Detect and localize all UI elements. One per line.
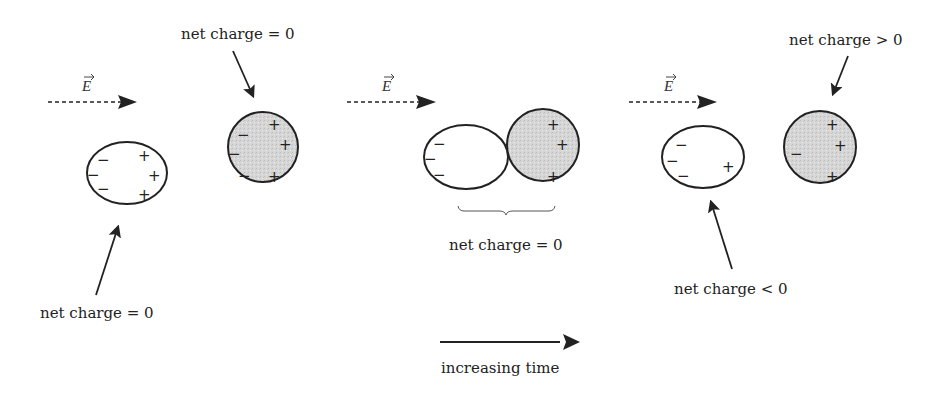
positive-charge: + <box>722 158 735 176</box>
brace-icon <box>458 206 555 215</box>
positive-charge: + <box>148 167 161 185</box>
pointer-arrow <box>833 56 848 94</box>
arrowhead-icon <box>416 95 436 109</box>
time-arrow: increasing time <box>440 334 580 377</box>
left-sphere-label: net charge = 0 <box>40 227 154 322</box>
right-sphere: + + + <box>507 109 579 186</box>
left-sphere: − − − + + + <box>87 142 167 204</box>
positive-charge: + <box>138 147 151 165</box>
positive-charge: + <box>268 116 281 134</box>
left-sphere: − − − + <box>662 126 744 188</box>
right-sphere-label: net charge > 0 <box>789 31 903 94</box>
time-arrow-label: increasing time <box>441 359 559 377</box>
electric-field-arrow: E <box>347 74 436 109</box>
left-sphere-label: net charge < 0 <box>674 202 788 298</box>
pointer-arrow <box>233 51 253 96</box>
pointer-arrow <box>96 227 118 295</box>
field-label: E <box>663 78 673 94</box>
field-label: E <box>81 78 91 94</box>
negative-charge: − <box>97 180 110 198</box>
positive-charge: + <box>279 136 292 154</box>
negative-charge: − <box>238 167 251 185</box>
net-charge-label: net charge = 0 <box>449 236 563 254</box>
positive-charge: + <box>138 186 151 204</box>
negative-charge: − <box>677 167 690 185</box>
right-sphere: − − − + + + <box>228 112 298 186</box>
net-charge-label: net charge > 0 <box>789 31 903 49</box>
charging-by-induction-diagram: E − − − + + + net charge = 0 − − − + + + <box>0 0 949 399</box>
net-charge-label: net charge = 0 <box>181 25 295 43</box>
panel-3: E − − − + net charge < 0 − + + + net cha… <box>629 31 903 298</box>
positive-charge: + <box>547 168 560 186</box>
arrowhead-icon <box>563 334 580 350</box>
right-sphere: − + + + <box>784 111 856 186</box>
positive-charge: + <box>556 136 569 154</box>
positive-charge: + <box>547 116 560 134</box>
combined-label: net charge = 0 <box>449 206 563 254</box>
electric-field-arrow: E <box>629 74 717 109</box>
field-label: E <box>381 78 391 94</box>
left-sphere: − − − <box>424 125 508 189</box>
electric-field-arrow: E <box>48 74 137 109</box>
negative-charge: − <box>237 126 250 144</box>
positive-charge: + <box>826 116 839 134</box>
net-charge-label: net charge = 0 <box>40 304 154 322</box>
right-sphere-label: net charge = 0 <box>181 25 295 96</box>
negative-charge: − <box>790 145 803 163</box>
negative-charge: − <box>433 166 446 184</box>
panel-1: E − − − + + + net charge = 0 − − − + + + <box>40 25 298 322</box>
positive-charge: + <box>834 137 847 155</box>
positive-charge: + <box>268 168 281 186</box>
negative-charge: − <box>228 145 241 163</box>
pointer-arrow <box>711 202 732 269</box>
arrowhead-icon <box>697 95 717 109</box>
net-charge-label: net charge < 0 <box>674 280 788 298</box>
positive-charge: + <box>826 168 839 186</box>
panel-2: E − − − + + + net charge = 0 <box>347 74 579 254</box>
